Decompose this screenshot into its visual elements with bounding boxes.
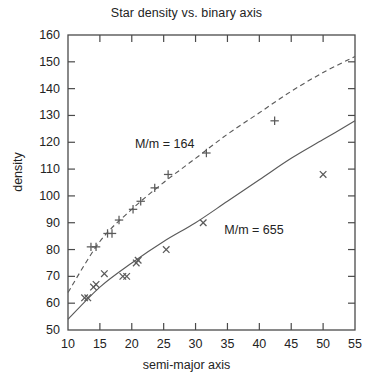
plot-canvas [0, 0, 373, 385]
series-fit-curve-2 [68, 121, 355, 319]
series-fit-curve-1 [68, 56, 355, 292]
series-markers-2 [81, 171, 326, 301]
chart-figure: Star density vs. binary axis density sem… [0, 0, 373, 385]
